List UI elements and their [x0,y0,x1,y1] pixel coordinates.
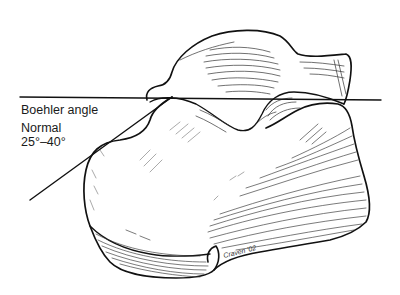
boehler-angle-illustration: Craven '02 Boehler angle Normal 25°–40° [0,0,400,295]
boehler-angle-label: Boehler angle [21,103,98,117]
talus-head-hatching [196,98,300,132]
normal-range-label: 25°–40° [21,135,66,149]
tuberosity-hatching [96,230,208,277]
calcaneus-light-strokes [90,122,244,210]
talus-hatching [180,42,346,96]
normal-label: Normal [21,121,61,135]
talus-outline [147,30,352,104]
sustentaculum-notch [207,246,218,270]
calcaneus-hatching [208,124,366,250]
